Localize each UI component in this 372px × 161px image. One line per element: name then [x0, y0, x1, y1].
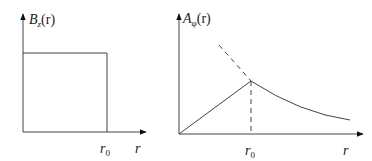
right-x-label: r	[343, 143, 349, 158]
left-x-tick-r0: r0	[100, 141, 110, 158]
bz-step-curve	[23, 53, 107, 132]
aphi-dashed-extrapolation	[219, 45, 251, 81]
aphi-decay-outside	[251, 81, 350, 120]
left-y-label: Bz(r)	[29, 12, 55, 29]
left-x-label: r	[135, 141, 141, 156]
right-panel-aphi: Aφ(r) r0 r	[179, 11, 363, 160]
left-panel-bz: Bz(r) r0 r	[23, 12, 146, 158]
aphi-linear-inside	[179, 81, 251, 134]
figure: Bz(r) r0 r Aφ(r) r0 r	[0, 0, 372, 161]
right-y-label: Aφ(r)	[182, 11, 211, 28]
right-x-tick-r0: r0	[245, 143, 255, 160]
